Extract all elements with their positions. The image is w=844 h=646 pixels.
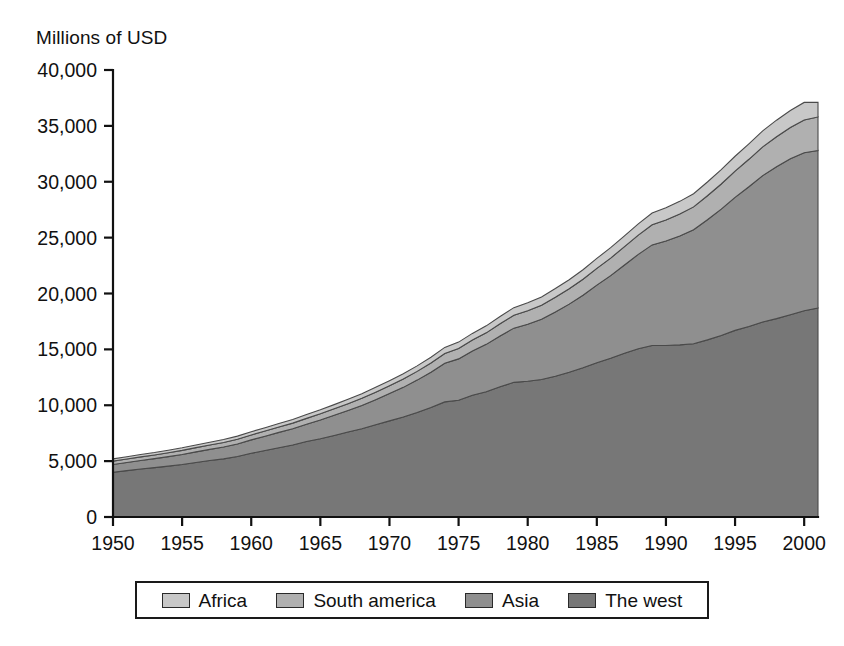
legend-label-africa: Africa [199, 591, 248, 610]
x-tick-label: 1950 [91, 532, 135, 554]
legend-item-0: Africa [162, 591, 248, 610]
legend-swatch-africa [162, 593, 190, 608]
chart-legend: Africa South america Asia The west [135, 581, 709, 619]
area-series-group [113, 102, 818, 517]
y-tick-label: 15,000 [37, 338, 97, 360]
x-tick-label: 1985 [575, 532, 619, 554]
y-tick-label: 5,000 [48, 450, 97, 472]
x-tick-label: 1995 [713, 532, 757, 554]
legend-swatch-south-america [276, 593, 304, 608]
legend-swatch-asia [465, 593, 493, 608]
chart-figure: Millions of USD 05,00010,00015,00020,000… [0, 0, 844, 646]
x-tick-label: 1975 [437, 532, 481, 554]
y-tick-label: 20,000 [37, 283, 97, 305]
x-tick-label: 1955 [160, 532, 204, 554]
y-tick-label: 35,000 [37, 115, 97, 137]
x-tick-label: 1970 [368, 532, 412, 554]
x-tick-label: 1990 [644, 532, 688, 554]
x-tick-label: 1960 [230, 532, 274, 554]
x-tick-label: 2000 [782, 532, 826, 554]
y-tick-label: 0 [86, 506, 97, 528]
legend-item-3: The west [568, 591, 682, 610]
x-tick-label: 1965 [299, 532, 343, 554]
y-tick-label: 40,000 [37, 59, 97, 81]
legend-label-the-west: The west [605, 591, 682, 610]
x-axis-ticks: 1950195519601965197019751980198519901995… [91, 517, 826, 554]
y-axis-ticks: 05,00010,00015,00020,00025,00030,00035,0… [37, 59, 113, 528]
y-tick-label: 10,000 [37, 394, 97, 416]
legend-item-1: South america [276, 591, 436, 610]
x-tick-label: 1980 [506, 532, 550, 554]
legend-item-2: Asia [465, 591, 539, 610]
legend-label-asia: Asia [502, 591, 539, 610]
y-tick-label: 25,000 [37, 227, 97, 249]
stacked-area-chart: 05,00010,00015,00020,00025,00030,00035,0… [0, 0, 844, 646]
legend-swatch-the-west [568, 593, 596, 608]
legend-label-south-america: South america [313, 591, 436, 610]
y-tick-label: 30,000 [37, 171, 97, 193]
